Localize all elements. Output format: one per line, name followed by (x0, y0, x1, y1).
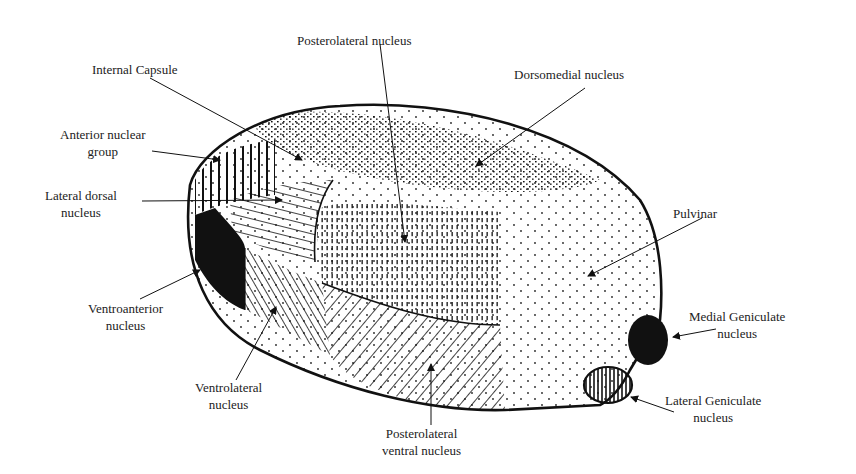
label-pulvinar: Pulvinar (673, 205, 717, 222)
label-line: Lateral dorsal (45, 187, 117, 204)
label-ventroanterior-nucleus: Ventroanterior nucleus (88, 300, 163, 334)
label-line: nucleus (689, 325, 785, 342)
label-medial-geniculate-nucleus: Medial Geniculate nucleus (689, 308, 785, 342)
label-line: nucleus (195, 396, 262, 413)
label-lateral-geniculate-nucleus: Lateral Geniculate nucleus (665, 392, 761, 426)
label-line: Medial Geniculate (689, 308, 785, 325)
label-line: Pulvinar (673, 205, 717, 222)
label-line: group (60, 143, 146, 160)
label-ventrolateral-nucleus: Ventrolateral nucleus (195, 379, 262, 413)
label-line: Dorsomedial nucleus (514, 66, 624, 83)
label-line: nucleus (665, 409, 761, 426)
label-line: ventral nucleus (382, 442, 461, 459)
label-line: nucleus (88, 317, 163, 334)
label-internal-capsule: Internal Capsule (92, 61, 178, 78)
label-line: Posterolateral nucleus (297, 32, 411, 49)
label-line: Ventroanterior (88, 300, 163, 317)
label-posterolateral-nucleus: Posterolateral nucleus (297, 32, 411, 49)
label-line: Lateral Geniculate (665, 392, 761, 409)
label-line: nucleus (45, 204, 117, 221)
label-line: Internal Capsule (92, 61, 178, 78)
label-line: Posterolateral (382, 425, 461, 442)
label-posterolateral-ventral-nucleus: Posterolateral ventral nucleus (382, 425, 461, 459)
label-dorsomedial-nucleus: Dorsomedial nucleus (514, 66, 624, 83)
label-anterior-nuclear-group: Anterior nuclear group (60, 126, 146, 160)
label-lateral-dorsal-nucleus: Lateral dorsal nucleus (45, 187, 117, 221)
label-line: Anterior nuclear (60, 126, 146, 143)
label-line: Ventrolateral (195, 379, 262, 396)
